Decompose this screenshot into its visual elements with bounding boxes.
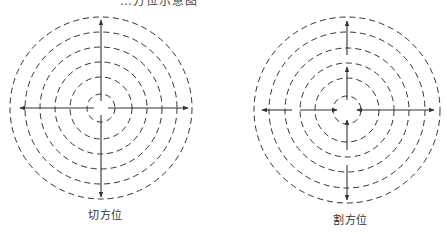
- azimuthal-projection-figure: …方位示意图: [0, 0, 447, 234]
- axis-arrows: [20, 20, 188, 197]
- secant-azimuth-label: 割方位: [333, 211, 368, 227]
- diagram-canvas: [0, 0, 447, 234]
- secant-azimuth-diagram: [254, 17, 440, 203]
- tangent-azimuth-label: 切方位: [88, 206, 123, 222]
- tangent-azimuth-diagram: [10, 17, 192, 199]
- figure-title-partial: …方位示意图: [120, 0, 198, 8]
